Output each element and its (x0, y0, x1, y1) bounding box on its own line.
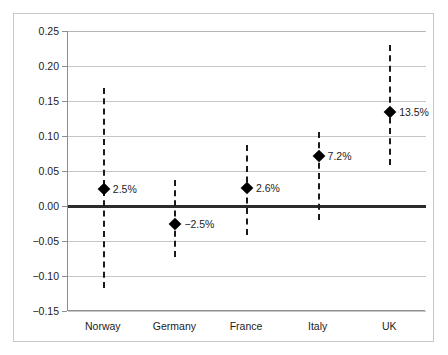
gridline (68, 311, 426, 312)
data-label-france: 2.6% (256, 182, 280, 193)
gridline (68, 31, 426, 32)
chart-figure: 2.5%−2.5%2.6%7.2%13.5% 0.250.200.150.100… (0, 0, 448, 355)
y-axis-tick-mark (62, 276, 67, 277)
y-axis-tick-label: −0.10 (13, 271, 59, 281)
x-axis-label-italy: Italy (308, 321, 327, 332)
data-point-germany (169, 217, 182, 230)
y-axis-tick-label: 0.05 (13, 166, 59, 176)
gridline (68, 136, 426, 137)
y-axis-tick-label: −0.15 (13, 306, 59, 316)
y-axis-tick-label: 0.10 (13, 131, 59, 141)
y-axis-tick-mark (62, 136, 67, 137)
data-label-uk: 13.5% (399, 106, 429, 117)
gridline (68, 66, 426, 67)
x-axis-label-germany: Germany (153, 321, 196, 332)
x-axis-label-norway: Norway (85, 321, 121, 332)
gridline (68, 276, 426, 277)
y-axis-tick-label: −0.05 (13, 236, 59, 246)
y-axis-tick-mark (62, 311, 67, 312)
data-point-uk (384, 105, 397, 118)
y-axis-tick-label: 0.20 (13, 61, 59, 71)
gridline (68, 101, 426, 102)
y-axis-tick-mark (62, 66, 67, 67)
y-axis-tick-mark (62, 206, 67, 207)
x-axis-label-uk: UK (382, 321, 397, 332)
data-label-italy: 7.2% (328, 150, 352, 161)
y-axis-tick-mark (62, 101, 67, 102)
data-label-norway: 2.5% (113, 183, 137, 194)
x-axis-label-france: France (230, 321, 263, 332)
y-axis-tick-label: 0.25 (13, 26, 59, 36)
gridline (68, 241, 426, 242)
data-point-france (241, 181, 254, 194)
y-axis-tick-mark (62, 171, 67, 172)
data-point-italy (312, 149, 325, 162)
y-axis-tick-mark (62, 31, 67, 32)
data-label-germany: −2.5% (184, 218, 214, 229)
plot-area: 2.5%−2.5%2.6%7.2%13.5% (67, 31, 425, 311)
error-bar-italy (318, 132, 320, 220)
y-axis-tick-label: 0.15 (13, 96, 59, 106)
y-axis-tick-mark (62, 241, 67, 242)
data-point-norway (97, 182, 110, 195)
y-axis-tick-label: 0.00 (13, 201, 59, 211)
